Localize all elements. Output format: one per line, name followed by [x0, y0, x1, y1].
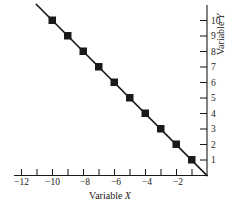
trend-line: [37, 5, 208, 176]
x-axis-title-variable: X: [125, 190, 131, 201]
data-point: [80, 48, 88, 56]
x-tick-label-minus8: −8: [73, 178, 97, 188]
y-axis-ticks: [200, 21, 207, 161]
data-point: [49, 17, 57, 25]
data-point: [173, 141, 181, 149]
data-point: [188, 156, 196, 164]
x-tick-label-minus6: −6: [104, 178, 128, 188]
data-point: [64, 32, 72, 40]
x-tick-label-minus2: −2: [166, 178, 190, 188]
x-tick-label-minus4: −4: [135, 178, 159, 188]
y-tick-label-1: 1: [211, 156, 227, 166]
data-point: [126, 94, 134, 102]
data-point: [142, 110, 150, 118]
y-tick-label-6: 6: [211, 79, 227, 89]
y-tick-label-5: 5: [211, 94, 227, 104]
x-axis-title: Variable X: [60, 190, 160, 201]
data-point: [111, 79, 119, 87]
data-point: [95, 63, 103, 71]
y-axis-title-variable: Y: [215, 14, 226, 20]
plot-canvas: [0, 0, 242, 208]
y-tick-label-2: 2: [211, 141, 227, 151]
data-point: [157, 125, 165, 133]
y-tick-label-4: 4: [211, 110, 227, 120]
x-tick-label-minus12: −12: [10, 178, 34, 188]
y-tick-label-7: 7: [211, 63, 227, 73]
x-axis-ticks: [22, 169, 193, 175]
x-tick-label-minus10: −10: [41, 178, 65, 188]
x-axis-title-text: Variable: [89, 190, 122, 201]
y-axis-title: Variable Y: [215, 0, 226, 55]
scatter-plot-figure: −12 −10 −8 −6 −4 −2 1 2 3 4 5 6 7 8 9 10…: [0, 0, 242, 208]
y-axis-title-text: Variable: [215, 22, 226, 55]
y-tick-label-3: 3: [211, 125, 227, 135]
